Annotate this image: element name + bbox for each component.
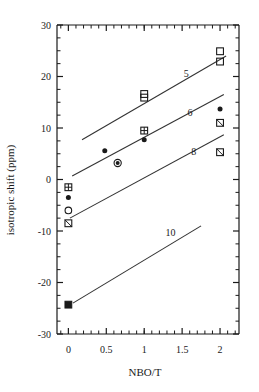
y-tick-label: -20 [38,277,51,288]
y-tick-label: 10 [41,123,51,134]
y-tick-label: -30 [38,329,51,340]
isotropic-shift-scatter-chart: -30-20-100102030 00.511.52 56810 NBO/T i… [0,0,259,392]
series-label-10: 10 [165,227,175,238]
series-markers-10 [65,301,72,308]
x-tick-label: 1 [142,344,147,355]
series-label-6: 6 [187,107,192,118]
y-tick-label: 20 [41,71,51,82]
series-label-8: 8 [191,146,196,157]
x-tick-label: 2 [218,344,223,355]
y-tick-label: -10 [38,226,51,237]
y-axis-title: isotropic shift (ppm) [4,144,17,235]
chart-figure: -30-20-100102030 00.511.52 56810 NBO/T i… [0,0,259,392]
x-axis-title: NBO/T [129,366,162,378]
y-tick-label: 30 [41,20,51,31]
x-tick-label: 0.5 [100,344,113,355]
x-tick-label: 0 [66,344,71,355]
y-tick-label: 0 [46,174,51,185]
series-label-5: 5 [184,68,189,79]
x-tick-label: 1.5 [176,344,189,355]
